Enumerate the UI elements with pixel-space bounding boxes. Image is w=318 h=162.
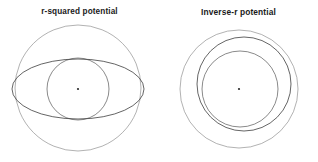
panel-inverse-r: Inverse-r potential [159,0,318,162]
panel-r-squared: r-squared potential [0,0,159,162]
panel-r-squared-title: r-squared potential [0,7,159,17]
figure-root: r-squared potential Inverse-r potential [0,0,318,162]
panel-inverse-r-title: Inverse-r potential [159,7,318,17]
